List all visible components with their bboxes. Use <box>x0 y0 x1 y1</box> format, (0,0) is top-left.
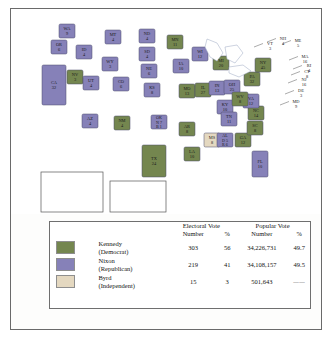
cell-popular-pct: —— <box>288 273 310 290</box>
legend-party-name: Byrd(Independent) <box>96 273 168 290</box>
cell-popular-number: 501,643 <box>235 273 288 290</box>
group-header-row: Electoral Vote Popular Vote <box>50 222 310 230</box>
col-electoral-pct: % <box>219 230 235 239</box>
column-header-row: Number % Number % <box>50 230 310 239</box>
map-svg: WA9OR6CA32NV3ID4MT4WY3UT4CO6AZ4NM4ND4SD4… <box>11 9 321 214</box>
state-label-al: ALD 5R 6 <box>222 133 228 147</box>
group-electoral-vote: Electoral Vote <box>167 222 235 230</box>
legend-row: Byrd(Independent)153501,643—— <box>50 273 310 290</box>
legend-row: Nixon(Republican)2194134,108,15749.5 <box>50 256 310 273</box>
legend-swatch-independent <box>50 273 96 290</box>
alaska-inset <box>41 172 103 212</box>
hawaii-inset <box>110 181 166 212</box>
party-label: Kennedy <box>99 240 168 247</box>
legend-swatch-democrat <box>50 239 96 256</box>
cell-electoral-pct: 56 <box>219 239 235 256</box>
party-affiliation: (Independent) <box>99 282 168 289</box>
group-popular-vote: Popular Vote <box>235 222 310 230</box>
col-electoral-number: Number <box>167 230 219 239</box>
party-label: Byrd <box>99 274 168 281</box>
table-head: Electoral Vote Popular Vote Number % Num… <box>50 222 310 239</box>
party-affiliation: (Democrat) <box>99 248 168 255</box>
legend-row: Kennedy(Democrat)3035634,226,73149.7 <box>50 239 310 256</box>
party-label: Nixon <box>99 257 168 264</box>
cell-electoral-number: 15 <box>167 273 219 290</box>
legend-swatch-republican <box>50 256 96 273</box>
col-popular-number: Number <box>235 230 288 239</box>
cell-popular-pct: 49.5 <box>288 256 310 273</box>
state-label-fl: FL10 <box>257 159 263 169</box>
legend-table: Electoral Vote Popular Vote Number % Num… <box>49 221 311 309</box>
cell-electoral-number: 303 <box>167 239 219 256</box>
table-body: Kennedy(Democrat)3035634,226,73149.7Nixo… <box>50 239 310 290</box>
cell-popular-number: 34,108,157 <box>235 256 288 273</box>
cell-electoral-pct: 41 <box>219 256 235 273</box>
map-figure-frame: WA9OR6CA32NV3ID4MT4WY3UT4CO6AZ4NM4ND4SD4… <box>10 8 322 330</box>
cell-popular-pct: 49.7 <box>288 239 310 256</box>
cell-electoral-pct: 3 <box>219 273 235 290</box>
results-table: Electoral Vote Popular Vote Number % Num… <box>50 222 310 290</box>
cell-electoral-number: 219 <box>167 256 219 273</box>
callout-label-nj: NJ16 <box>302 77 307 87</box>
legend-party-name: Nixon(Republican) <box>96 256 168 273</box>
legend-party-name: Kennedy(Democrat) <box>96 239 168 256</box>
cell-popular-number: 34,226,731 <box>235 239 288 256</box>
col-popular-pct: % <box>288 230 310 239</box>
state-label-nc: NC14 <box>253 108 259 118</box>
state-label-ok: OKN 7B 1 <box>156 115 162 129</box>
party-affiliation: (Republican) <box>99 265 168 272</box>
us-electoral-map: WA9OR6CA32NV3ID4MT4WY3UT4CO6AZ4NM4ND4SD4… <box>11 9 321 214</box>
